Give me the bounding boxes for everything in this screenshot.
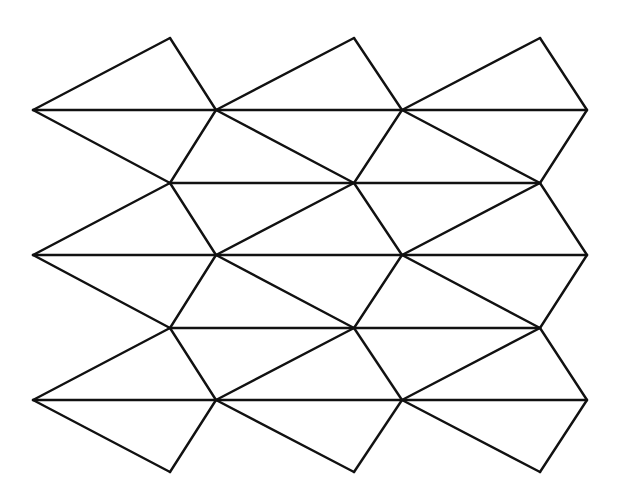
diagonal-edge [33, 328, 170, 400]
diagonal-edge [354, 255, 402, 328]
diagonal-edge [33, 255, 170, 328]
diagonal-edge [540, 328, 587, 400]
diagonal-edge [354, 110, 402, 183]
top-kite-edge [402, 38, 540, 110]
diagonal-edge [540, 110, 587, 183]
diagonal-edge [402, 255, 540, 328]
top-kite-edge [170, 38, 216, 110]
bottom-kite-edge [402, 400, 540, 472]
diagonal-edge [402, 110, 540, 183]
bottom-kite-edge [540, 400, 587, 472]
diagonal-edge [170, 183, 216, 255]
top-kite-edge [33, 38, 170, 110]
diagonal-edge [170, 255, 216, 328]
diagonal-edge [216, 255, 354, 328]
diagonal-edge [216, 183, 354, 255]
diagonal-edge [540, 255, 587, 328]
diagonal-edge [402, 328, 540, 400]
diagonal-edge [354, 183, 402, 255]
top-kite-edge [354, 38, 402, 110]
diagonal-edge [33, 110, 170, 183]
bottom-kite-edge [216, 400, 354, 472]
tessellation-diagram [0, 0, 619, 493]
top-kite-edge [540, 38, 587, 110]
diagonal-edge [402, 183, 540, 255]
diagonal-edge [216, 110, 354, 183]
bottom-kite-edge [33, 400, 170, 472]
diagonal-edge [170, 328, 216, 400]
tessellation-svg [0, 0, 619, 493]
diagonal-edge [540, 183, 587, 255]
diagonal-edge [33, 183, 170, 255]
diagonal-edge [354, 328, 402, 400]
top-kite-edge [216, 38, 354, 110]
diagonal-edge [170, 110, 216, 183]
diagonal-edge [216, 328, 354, 400]
bottom-kite-edge [170, 400, 216, 472]
bottom-kite-edge [354, 400, 402, 472]
